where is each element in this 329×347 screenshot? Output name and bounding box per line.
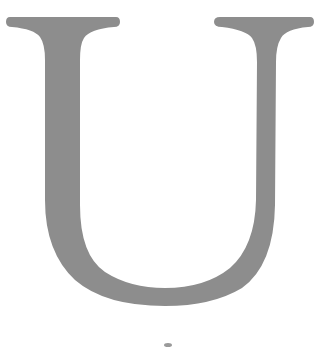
letter-canvas: U: [0, 0, 329, 347]
letter-u-shape: [6, 17, 314, 306]
speck-mark: [164, 343, 172, 347]
letter-u-glyph: U: [0, 0, 329, 347]
